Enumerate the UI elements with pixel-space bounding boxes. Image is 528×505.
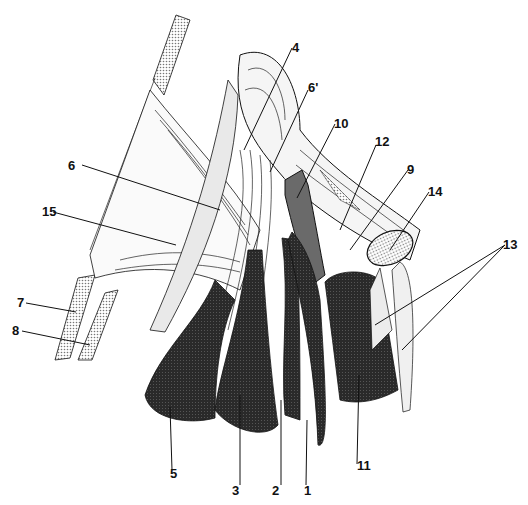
anatomical-figure: 4 6' 6 15 10 12 9 14 13 7 8 5 3 2 1 11 [0, 0, 528, 505]
label-10: 9 [407, 162, 414, 177]
label-7: 7 [17, 295, 24, 310]
label-5: 5 [170, 466, 177, 481]
label-13: 13 [503, 237, 517, 252]
label-14: 14 [428, 184, 443, 199]
label-11: 10 [334, 116, 348, 131]
label-15: 15 [42, 204, 56, 219]
label-12: 12 [375, 134, 389, 149]
label-1: 1 [304, 483, 311, 498]
label-6: 6 [68, 158, 75, 173]
label-4: 4 [292, 40, 300, 55]
label-6-prime: 6' [308, 80, 318, 95]
label-3: 3 [232, 483, 239, 498]
label-9: 11 [357, 458, 371, 473]
label-2: 2 [272, 483, 279, 498]
arch-vessel [238, 52, 420, 272]
label-8: 8 [12, 323, 19, 338]
tendons-7-8 [55, 275, 118, 360]
